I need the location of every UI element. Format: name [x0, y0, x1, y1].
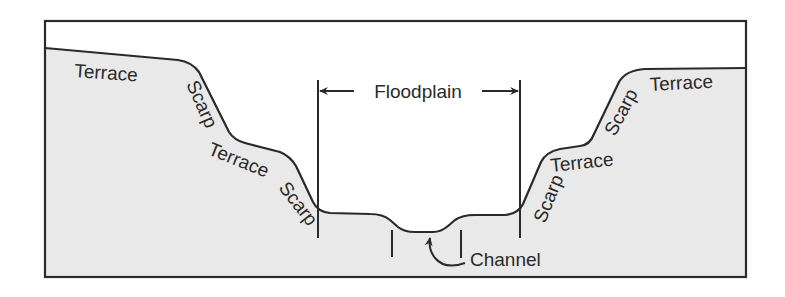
right-upper-terrace-label: Terrace	[649, 71, 713, 95]
valley-cross-section: Floodplain Channel Terrace Scarp Terrace…	[0, 0, 785, 297]
diagram-canvas: Floodplain Channel Terrace Scarp Terrace…	[0, 0, 785, 297]
floodplain-label: Floodplain	[374, 81, 462, 102]
left-upper-terrace-label: Terrace	[74, 60, 139, 85]
channel-label: Channel	[470, 249, 541, 270]
